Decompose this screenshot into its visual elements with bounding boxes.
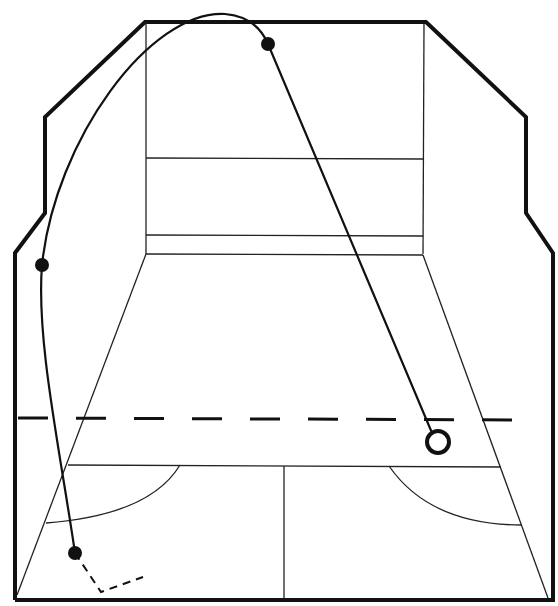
right-service-box-arc — [389, 466, 522, 525]
squash-court-diagram — [0, 0, 558, 606]
diagram-container: Squash court shot trajectory — [0, 0, 558, 606]
ball-trajectory — [41, 14, 435, 553]
left-floor-edge — [17, 254, 146, 595]
front-wall-contact-marker — [261, 37, 275, 51]
side-wall-contact-marker — [35, 258, 49, 272]
landing-point-marker — [427, 431, 449, 453]
tin-line — [146, 235, 423, 236]
start-point-marker — [68, 546, 82, 560]
dashed-reference-line — [18, 418, 540, 420]
service-line — [146, 158, 423, 159]
front-wall-right-edge — [423, 24, 424, 254]
front-wall-floor-line — [146, 254, 423, 255]
start-dashed-path — [75, 553, 143, 592]
right-floor-edge — [423, 255, 548, 598]
